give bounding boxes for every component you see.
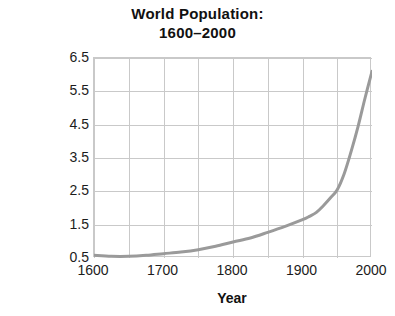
y-tick-label: 3.5 <box>55 150 89 164</box>
chart-title-line-2: 1600–2000 <box>0 23 395 42</box>
x-tick-label: 1700 <box>133 262 193 278</box>
chart-title-line-1: World Population: <box>0 4 395 23</box>
y-tick-label: 6.5 <box>55 50 89 64</box>
x-tick-label: 1800 <box>202 262 262 278</box>
x-tick-label: 2000 <box>341 262 395 278</box>
x-axis-tick-labels: 16001700180019002000 <box>93 262 371 282</box>
plot-area <box>93 57 371 257</box>
y-tick-label: 2.5 <box>55 183 89 197</box>
y-tick-label: 5.5 <box>55 83 89 97</box>
population-line-chart <box>94 58 372 258</box>
chart-figure: World Population: 1600–2000 Population (… <box>0 0 395 316</box>
y-axis-tick-labels: 0.51.52.53.54.55.56.5 <box>53 57 89 257</box>
y-tick-label: 4.5 <box>55 117 89 131</box>
chart-title: World Population: 1600–2000 <box>0 4 395 42</box>
x-axis-label: Year <box>93 290 371 306</box>
x-tick-label: 1600 <box>63 262 123 278</box>
y-tick-label: 1.5 <box>55 217 89 231</box>
x-tick-label: 1900 <box>272 262 332 278</box>
